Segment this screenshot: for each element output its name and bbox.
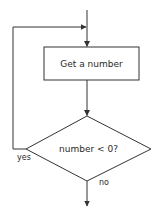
flowchart-canvas [0, 0, 162, 220]
no-edge-label: no [99, 178, 109, 187]
process-box-label: Get a number [44, 47, 139, 80]
yes-edge-label: yes [17, 153, 31, 162]
decision-label: number < 0? [26, 116, 151, 181]
